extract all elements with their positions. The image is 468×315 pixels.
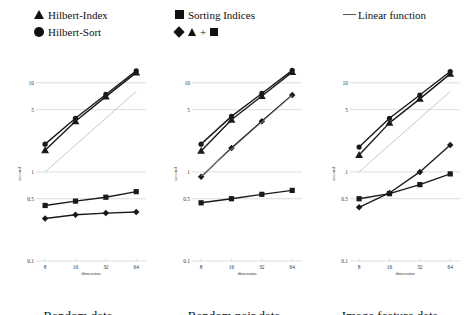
y-tick-label: 0.1 [27,258,36,264]
series-hilbert-index [41,69,140,153]
y-tick-label: 1 [187,169,192,175]
series-line [201,72,292,151]
circle-marker [198,142,203,147]
square-marker [417,182,422,187]
y-tick-label: 0.1 [341,258,350,264]
legend-column-3: Linear function [340,6,426,23]
y-tick-label: 10 [185,80,192,86]
y-tick-label: 0.5 [341,196,350,202]
square-marker [198,200,203,205]
circle-marker [259,91,264,96]
square-marker [103,195,108,200]
x-tick-label: 16 [229,264,234,270]
y-axis-label: second [331,167,336,181]
x-tick-label: 16 [387,264,392,270]
figure-legend: Hilbert-Index Hilbert-Sort Sorting Indic… [0,0,468,44]
diamond-marker [356,204,363,211]
circle-marker [417,92,422,97]
series-sorting-indices [198,188,294,206]
legend-entry-hilbert-index: Hilbert-Index [30,6,108,23]
panel-image-feature-data: 10510.50.18163264dimensionsecond Image f… [312,46,468,291]
circle-icon [30,27,48,37]
plot-area: 10510.50.18163264dimensionsecond [350,56,460,261]
panel-caption: Random pair data [156,308,312,315]
circle-marker [356,144,361,149]
panel-caption: Image feature data [312,308,468,315]
circle-marker [103,92,108,97]
diamond-marker [42,215,49,222]
series-sorting-indices [356,171,452,201]
series-linear-function [359,91,450,171]
square-marker [42,203,47,208]
panel-caption: Random data [0,308,156,315]
legend-label: Hilbert-Index [48,9,108,21]
chart-svg [192,56,302,261]
circle-marker [42,142,47,147]
legend-entry-sorting-indices: Sorting Indices [170,6,255,23]
diamond-icon [170,28,188,36]
circle-marker [290,68,295,73]
x-tick-label: 8 [358,264,361,270]
chart-svg [36,56,146,261]
diamond-marker [133,209,140,216]
square-marker [356,196,361,201]
y-tick-label: 0.1 [183,258,192,264]
legend-label-combined: + [188,26,218,38]
panel-random-data: 10510.50.18163264dimensionsecond Random … [0,46,156,291]
series-line [45,212,136,219]
circle-marker [73,116,78,121]
x-axis-label: dimension [81,271,100,276]
y-tick-label: 5 [345,107,350,113]
series- [356,142,454,211]
square-marker [448,171,453,176]
legend-entry-linear-function: Linear function [340,6,426,23]
series-hilbert-index [197,68,296,154]
series-line [359,74,450,155]
legend-label: Sorting Indices [188,9,255,21]
legend-label: Linear function [358,9,426,21]
x-tick-label: 32 [417,264,422,270]
y-tick-label: 10 [29,80,36,86]
x-tick-label: 8 [200,264,203,270]
series-line [45,73,136,151]
y-tick-label: 5 [31,107,36,113]
square-marker [73,199,78,204]
x-tick-label: 64 [448,264,453,270]
panel-random-pair-data: 10510.50.18163264dimensionsecond Random … [156,46,312,291]
x-tick-label: 32 [259,264,264,270]
chart-svg [350,56,460,261]
y-tick-label: 10 [343,80,350,86]
circle-marker [229,114,234,119]
series-hilbert-sort [356,69,452,150]
series-line [201,190,292,202]
y-tick-label: 1 [31,169,36,175]
legend-column-1: Hilbert-Index Hilbert-Sort [30,6,108,40]
y-tick-label: 0.5 [27,196,36,202]
circle-marker [387,116,392,121]
series-hilbert-sort [42,68,138,146]
legend-column-2: Sorting Indices + [170,6,255,40]
x-tick-label: 64 [290,264,295,270]
x-axis-label: dimension [237,271,256,276]
square-marker [259,192,264,197]
series- [42,209,140,222]
circle-marker [448,69,453,74]
line-icon [340,14,358,15]
triangle-icon [188,28,196,36]
x-axis-label: dimension [395,271,414,276]
x-tick-label: 32 [103,264,108,270]
legend-entry-combined: + [170,23,255,40]
series-line [359,174,450,199]
square-marker [134,189,139,194]
plot-area: 10510.50.18163264dimensionsecond [192,56,302,261]
plus-sign: + [200,26,206,38]
x-tick-label: 16 [73,264,78,270]
y-tick-label: 0.5 [183,196,192,202]
diamond-marker [72,212,79,219]
square-marker [290,188,295,193]
x-tick-label: 64 [134,264,139,270]
x-tick-label: 8 [44,264,47,270]
square-marker [229,196,234,201]
plot-area: 10510.50.18163264dimensionsecond [36,56,146,261]
legend-entry-hilbert-sort: Hilbert-Sort [30,23,108,40]
